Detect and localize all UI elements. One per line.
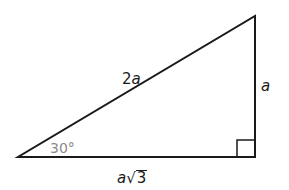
radicand: 3 — [136, 170, 148, 186]
right-angle-marker — [237, 140, 255, 157]
horizontal-leg-label: a√3 — [117, 170, 147, 186]
hypotenuse-coef: 2 — [122, 70, 132, 88]
angle-label: 30° — [50, 141, 75, 155]
hypotenuse-label: 2a — [122, 72, 141, 87]
radical-sign: √ — [126, 169, 136, 187]
triangle-diagram: 2a a 30° a√3 — [0, 0, 289, 190]
vertical-leg-label: a — [261, 79, 270, 94]
triangle-svg — [0, 0, 289, 190]
horizontal-leg-var: a — [117, 169, 126, 187]
hypotenuse-var: a — [132, 70, 141, 88]
